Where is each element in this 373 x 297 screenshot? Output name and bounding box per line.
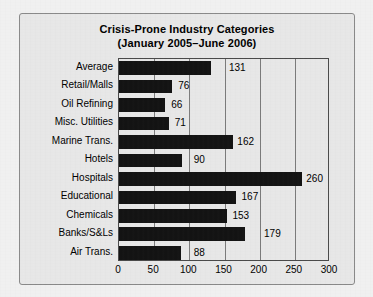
- x-tick-label: 250: [285, 263, 302, 277]
- bar-row[interactable]: 260: [119, 170, 328, 188]
- category-label: Oil Refining: [20, 95, 113, 113]
- bar-value-label: 260: [306, 171, 323, 187]
- bar-row[interactable]: 88: [119, 244, 328, 262]
- bar-value-label: 179: [264, 226, 281, 242]
- bar[interactable]: [119, 246, 181, 260]
- x-tick-label: 200: [250, 263, 267, 277]
- category-label: Retail/Malls: [20, 76, 113, 94]
- bar[interactable]: [119, 117, 169, 131]
- x-tick-label: 50: [148, 263, 159, 277]
- bar-row[interactable]: 66: [119, 96, 328, 114]
- bar[interactable]: [119, 191, 236, 205]
- category-label: Hospitals: [20, 169, 113, 187]
- bar-value-label: 88: [194, 245, 205, 261]
- chart-subtitle: (January 2005–June 2006): [20, 36, 354, 50]
- bar-row[interactable]: 71: [119, 114, 328, 132]
- bar-value-label: 76: [178, 78, 189, 94]
- x-tick-label: 300: [321, 263, 338, 277]
- x-tick-label: 150: [215, 263, 232, 277]
- category-label: Air Trans.: [20, 243, 113, 261]
- bar-value-label: 131: [229, 60, 246, 76]
- bar-value-label: 153: [232, 208, 249, 224]
- bar-value-label: 71: [175, 115, 186, 131]
- plot-area: 1317666711629026016715317988: [118, 58, 329, 261]
- bar-value-label: 162: [237, 134, 254, 150]
- chart-frame: Crisis-Prone Industry Categories (Januar…: [19, 13, 355, 285]
- bar[interactable]: [119, 154, 182, 168]
- category-label: Misc. Utilities: [20, 113, 113, 131]
- chart-title-block: Crisis-Prone Industry Categories (Januar…: [20, 22, 354, 50]
- category-label: Chemicals: [20, 206, 113, 224]
- x-tick-label: 100: [180, 263, 197, 277]
- bar[interactable]: [119, 227, 245, 241]
- category-axis-labels: AverageRetail/MallsOil RefiningMisc. Uti…: [20, 58, 113, 261]
- bar-row[interactable]: 167: [119, 188, 328, 206]
- bar[interactable]: [119, 135, 233, 149]
- bar-value-label: 90: [194, 152, 205, 168]
- category-label: Hotels: [20, 150, 113, 168]
- category-label: Banks/S&Ls: [20, 224, 113, 242]
- category-label: Educational: [20, 187, 113, 205]
- bar-row[interactable]: 76: [119, 77, 328, 95]
- bar-row[interactable]: 153: [119, 207, 328, 225]
- bar[interactable]: [119, 61, 211, 75]
- bar-row[interactable]: 162: [119, 133, 328, 151]
- bar-row[interactable]: 131: [119, 59, 328, 77]
- bar-value-label: 167: [242, 189, 259, 205]
- bar[interactable]: [119, 80, 172, 94]
- category-label: Marine Trans.: [20, 132, 113, 150]
- bar[interactable]: [119, 209, 227, 223]
- x-tick-label: 0: [115, 263, 121, 277]
- bar[interactable]: [119, 98, 165, 112]
- bar-row[interactable]: 90: [119, 151, 328, 169]
- bar[interactable]: [119, 172, 302, 186]
- chart-title: Crisis-Prone Industry Categories: [20, 22, 354, 36]
- x-axis-tick-labels: 050100150200250300: [118, 263, 329, 279]
- bar-value-label: 66: [171, 97, 182, 113]
- category-label: Average: [20, 58, 113, 76]
- bar-row[interactable]: 179: [119, 225, 328, 243]
